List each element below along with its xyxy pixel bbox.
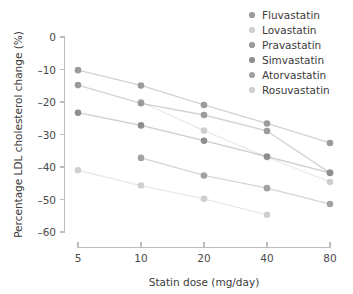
x-tick-label-80: 80 (323, 252, 336, 264)
y-tick-label-50: –50 (37, 194, 56, 206)
data-point-atorvastatin-10mg (138, 155, 145, 162)
legend-label-lovastatin: Lovastatin (262, 24, 316, 36)
data-point-simvastatin-10mg (138, 122, 145, 129)
data-point-simvastatin-5mg (75, 109, 82, 116)
data-point-simvastatin-20mg (201, 137, 208, 144)
data-point-pravastatin-5mg (75, 82, 82, 89)
data-point-fluvastatin-80mg (327, 140, 334, 147)
data-point-fluvastatin-10mg (138, 82, 145, 89)
x-tick-label-10: 10 (134, 252, 147, 264)
data-point-pravastatin-40mg (264, 128, 271, 135)
legend-item-rosuvastatin[interactable]: Rosuvastatin (249, 84, 330, 96)
data-point-rosuvastatin-40mg (264, 211, 271, 218)
y-tick-label-0: 0 (49, 31, 56, 43)
x-tick-label-40: 40 (260, 252, 273, 264)
legend-marker-pravastatin (249, 42, 255, 48)
y-tick-label-10: –10 (37, 64, 56, 76)
data-point-fluvastatin-40mg (264, 120, 271, 127)
data-point-atorvastatin-40mg (264, 185, 271, 192)
legend-label-simvastatin: Simvastatin (262, 54, 324, 66)
data-point-atorvastatin-20mg (201, 172, 208, 179)
data-point-atorvastatin-80mg (327, 201, 334, 208)
x-tick-label-5: 5 (75, 252, 82, 264)
x-axis-title: Statin dose (mg/day) (149, 276, 260, 288)
legend-marker-simvastatin (249, 57, 255, 63)
legend-label-pravastatin: Pravastatin (262, 39, 321, 51)
legend-marker-fluvastatin (249, 12, 255, 18)
data-point-rosuvastatin-10mg (138, 182, 145, 189)
legend-label-rosuvastatin: Rosuvastatin (262, 84, 330, 96)
ldl-cholesterol-dose-response-chart: 0 –10 –20 –30 –40 –50 –60 Percentage LDL… (0, 0, 353, 294)
data-point-fluvastatin-5mg (75, 67, 82, 74)
y-tick-label-20: –20 (37, 96, 56, 108)
data-point-pravastatin-20mg (201, 112, 208, 119)
legend-label-atorvastatin: Atorvastatin (262, 69, 326, 81)
data-point-simvastatin-40mg (264, 153, 271, 160)
y-tick-label-30: –30 (37, 129, 56, 141)
legend-marker-rosuvastatin (249, 87, 255, 93)
y-tick-label-40: –40 (37, 161, 56, 173)
data-point-rosuvastatin-5mg (75, 167, 82, 174)
data-point-simvastatin-80mg (327, 170, 334, 177)
legend-marker-atorvastatin (249, 72, 255, 78)
data-point-pravastatin-10mg (138, 100, 145, 107)
legend-marker-lovastatin (249, 27, 255, 33)
y-axis-title: Percentage LDL cholesterol change (%) (12, 31, 24, 238)
data-point-lovastatin-20mg (201, 127, 208, 134)
data-point-rosuvastatin-20mg (201, 196, 208, 203)
data-point-lovastatin-80mg (327, 179, 334, 186)
legend-label-fluvastatin: Fluvastatin (262, 9, 320, 21)
y-tick-label-60: –60 (37, 226, 56, 238)
data-point-fluvastatin-20mg (201, 102, 208, 109)
x-tick-label-20: 20 (197, 252, 210, 264)
